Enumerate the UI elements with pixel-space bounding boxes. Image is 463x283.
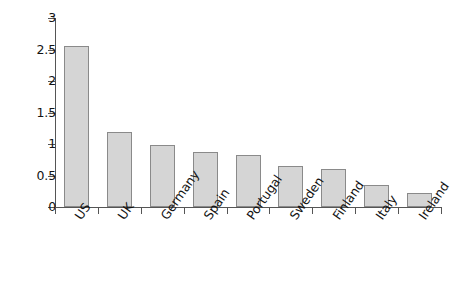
x-tick-mark	[312, 207, 313, 214]
x-axis-label-us: US	[73, 201, 93, 222]
y-tick-label: 3	[12, 12, 56, 25]
x-tick-mark	[141, 207, 142, 214]
x-tick-mark	[227, 207, 228, 214]
bar-us	[64, 46, 89, 207]
y-tick-label: 0.5	[12, 170, 56, 183]
bar-uk	[107, 132, 132, 207]
x-tick-mark	[398, 207, 399, 214]
y-tick-label: 1	[12, 138, 56, 151]
y-tick-label: 1.5	[12, 107, 56, 120]
x-tick-mark	[98, 207, 99, 214]
y-tick-label: 2	[12, 75, 56, 88]
bar-chart: 00.511.522.53 USUKGermanySpainPortugalSw…	[0, 0, 463, 283]
y-tick-label: 0	[12, 201, 56, 214]
x-tick-mark	[55, 207, 56, 214]
y-tick-label: 2.5	[12, 44, 56, 57]
x-tick-mark	[441, 207, 442, 214]
x-tick-mark	[355, 207, 356, 214]
x-tick-mark	[184, 207, 185, 214]
x-tick-mark	[269, 207, 270, 214]
